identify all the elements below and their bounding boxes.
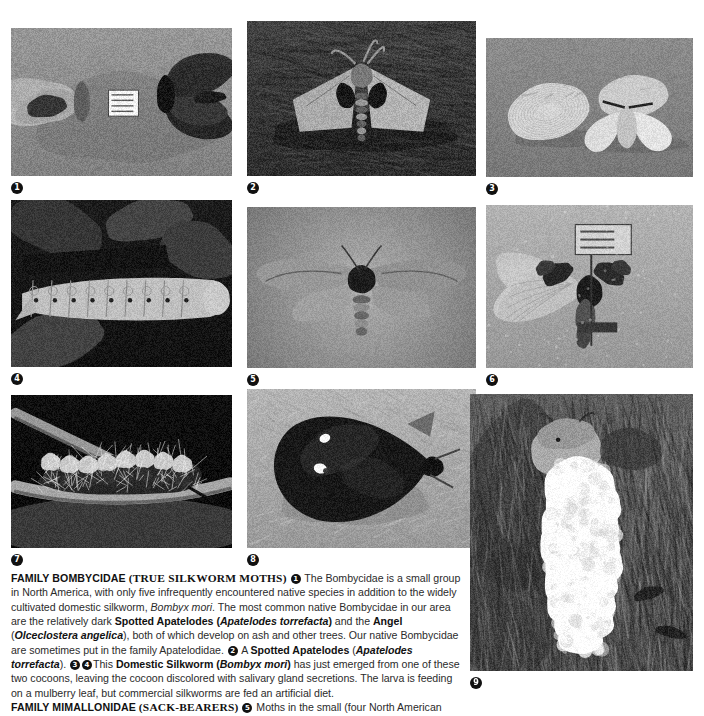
photo-spotted-apatelodes-on-bark (247, 21, 476, 176)
photo-mimallonidae-sack-bearer-moth (247, 207, 476, 368)
family-mimallonidae-subheading: (SACK-BEARERS) (139, 701, 239, 713)
photo-plate: 1 2 3 4 5 6 7 8 9 (0, 0, 704, 560)
figure-1[interactable] (11, 28, 232, 176)
figure-badge-6: 6 (486, 374, 498, 386)
family-mimallonidae-heading: FAMILY MIMALLONIDAE (11, 701, 136, 713)
family-bombycidae-subheading: (TRUE SILKWORM MOTHS) (129, 572, 287, 584)
species-bombyx-mori-2: Bombyx mori (220, 658, 287, 670)
figure-badge-2: 2 (247, 182, 259, 194)
bombycidae-text-3: and the (332, 615, 373, 627)
paragraph-family-mimallonidae: FAMILY MIMALLONIDAE (SACK-BEARERS) 5 Mot… (11, 700, 463, 714)
common-name-spotted-apatelodes: Spotted Apatelodes ( (115, 615, 220, 627)
photo-pinned-moth-specimen-with-label (486, 205, 693, 368)
figure-5[interactable] (247, 207, 476, 368)
bombycidae-text-8: ). (60, 658, 69, 670)
species-bombyx-mori: Bombyx mori (151, 601, 213, 613)
species-apatelodes-torrefacta: Apatelodes torrefacta (220, 615, 329, 627)
photo-dark-moth-with-white-spots (247, 389, 476, 548)
family-bombycidae-heading: FAMILY BOMBYCIDAE (11, 572, 126, 584)
mimallonidae-text-1: Moths in the small (four North American (253, 701, 441, 713)
photo-spotted-apatelodes-and-angel-specimens (11, 28, 232, 176)
photo-hairy-caterpillar-on-branch (11, 395, 232, 548)
figure-3[interactable] (486, 38, 693, 177)
figure-badge-1: 1 (11, 182, 23, 194)
paragraph-family-bombycidae: FAMILY BOMBYCIDAE (TRUE SILKWORM MOTHS) … (11, 571, 463, 700)
common-name-spotted-apatelodes-2: Spotted Apatelodes (251, 644, 350, 656)
inline-badge-5: 5 (242, 703, 252, 713)
common-name-angel: Angel (373, 615, 402, 627)
photo-moth-with-white-egg-mass-on-bark (470, 394, 693, 671)
photo-domestic-silkworm-larva (11, 200, 232, 367)
figure-2[interactable] (247, 21, 476, 176)
common-name-domestic-silkworm: Domestic Silkworm ( (116, 658, 220, 670)
inline-badge-3: 3 (70, 660, 80, 670)
inline-badge-1: 1 (291, 574, 301, 584)
figure-6[interactable] (486, 205, 693, 368)
species-olceclostera-angelica: Olceclostera angelica (15, 629, 124, 641)
figure-badge-4: 4 (11, 373, 23, 385)
inline-badge-2: 2 (228, 646, 238, 656)
bombycidae-text-9: This (93, 658, 116, 670)
figure-badge-5: 5 (247, 374, 259, 386)
bombycidae-text-6: A (239, 644, 251, 656)
figure-8[interactable] (247, 389, 476, 548)
figure-7[interactable] (11, 395, 232, 548)
figure-9[interactable] (470, 394, 693, 671)
figure-badge-3: 3 (486, 183, 498, 195)
figure-badge-7: 7 (11, 554, 23, 566)
photo-domestic-silkworm-with-cocoons (486, 38, 693, 177)
figure-4[interactable] (11, 200, 232, 367)
inline-badge-4: 4 (82, 660, 92, 670)
figure-badge-9: 9 (470, 677, 482, 689)
field-guide-page: 1 2 3 4 5 6 7 8 9 (0, 0, 704, 716)
caption-text-block: FAMILY BOMBYCIDAE (TRUE SILKWORM MOTHS) … (11, 571, 463, 714)
figure-badge-8: 8 (247, 554, 259, 566)
